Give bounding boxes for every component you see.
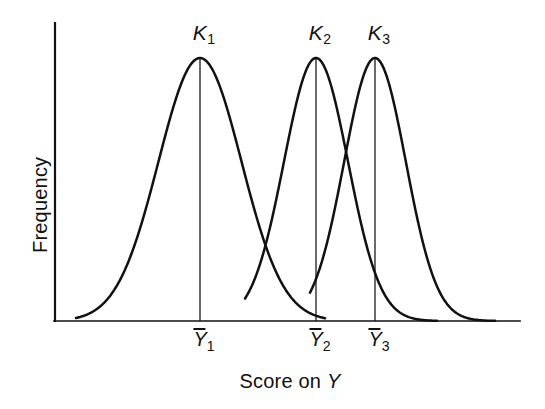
mean-label-subscript: 3 [382, 338, 390, 354]
peak-label-k3: K3 [368, 22, 390, 46]
y-bar-glyph: Y [193, 328, 206, 349]
y-bar-glyph: Y [309, 328, 322, 349]
distribution-curve-k2 [245, 58, 437, 321]
peak-label-symbol: K [368, 21, 382, 44]
mean-label-symbol: Y [368, 328, 381, 350]
x-axis-title-prefix: Score on [240, 370, 327, 392]
y-bar-glyph: Y [368, 328, 381, 349]
mean-label-subscript: 2 [323, 338, 331, 354]
peak-label-k1: K1 [193, 22, 215, 46]
peak-label-k2: K2 [309, 22, 331, 46]
peak-label-symbol: K [193, 21, 207, 44]
y-axis-title: Frequency [30, 157, 50, 253]
mean-label-symbol: Y [193, 328, 206, 350]
curves-group [76, 58, 495, 321]
overbar [368, 328, 380, 330]
overbar [193, 328, 205, 330]
axes-group [54, 23, 520, 321]
x-axis-title-variable: Y [327, 370, 341, 392]
mean-label-y3: Y3 [368, 328, 389, 353]
peak-label-symbol: K [309, 21, 323, 44]
mean-label-y1: Y1 [193, 328, 214, 353]
figure-container: K1 K2 K3 Y1 Y2 Y3 Score on Y Frequency [0, 0, 545, 409]
x-axis-title: Score on Y [240, 371, 341, 391]
mean-label-subscript: 1 [207, 338, 215, 354]
mean-label-y2: Y2 [309, 328, 330, 353]
peak-label-subscript: 3 [382, 31, 390, 47]
mean-lines-group [200, 58, 375, 321]
mean-label-symbol: Y [309, 328, 322, 350]
distribution-plot [0, 0, 545, 409]
peak-label-subscript: 1 [207, 31, 215, 47]
overbar [309, 328, 321, 330]
peak-label-subscript: 2 [323, 31, 331, 47]
distribution-curve-k3 [310, 58, 495, 321]
